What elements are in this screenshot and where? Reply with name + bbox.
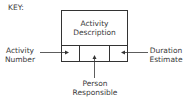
person-responsible-label: Person Responsible: [70, 79, 120, 97]
arrowhead-icon: [93, 55, 97, 59]
person-responsible-line1: Person: [70, 79, 120, 88]
duration-estimate-line1: Duration: [148, 46, 183, 55]
duration-estimate-line2: Estimate: [148, 55, 183, 64]
person-responsible-line2: Responsible: [70, 88, 120, 97]
activity-number-label: Activity Number: [2, 46, 38, 64]
arrowhead-icon: [65, 51, 69, 55]
arrowhead-icon: [121, 51, 125, 55]
activity-number-line2: Number: [2, 55, 38, 64]
activity-description-line1: Activity: [61, 19, 128, 28]
duration-estimate-label: Duration Estimate: [148, 46, 183, 64]
activity-description-label: Activity Description: [61, 19, 128, 37]
activity-description-line2: Description: [61, 28, 128, 37]
activity-number-line1: Activity: [2, 46, 38, 55]
